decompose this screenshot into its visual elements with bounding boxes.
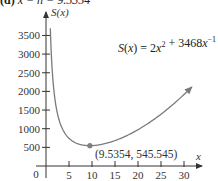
origin-label: 0 — [33, 168, 39, 180]
x-tick-label: 25 — [156, 169, 168, 181]
x-tick-label: 10 — [87, 169, 99, 181]
x-tick-label: 30 — [179, 169, 191, 181]
x-tick-label: 20 — [133, 169, 145, 181]
x-axis-ticks: 51015202530 — [66, 161, 190, 181]
y-tick-label: 3500 — [18, 29, 41, 41]
y-tick-label: 2500 — [18, 67, 41, 79]
function-plot: 500100015002000250030003500 51015202530 … — [0, 0, 218, 181]
y-axis-label: S(x) — [51, 6, 69, 19]
y-tick-label: 3000 — [18, 48, 41, 60]
function-label: S(x) = 2x2 + 3468x−1 — [118, 35, 216, 55]
y-tick-label: 500 — [24, 141, 41, 153]
x-axis-label: x — [195, 150, 201, 162]
x-tick-label: 15 — [110, 169, 122, 181]
y-tick-label: 2000 — [18, 85, 41, 97]
y-tick-label: 1500 — [18, 104, 41, 116]
x-tick-label: 5 — [66, 169, 72, 181]
minimum-point-label: (9.5354, 545.545) — [95, 148, 178, 161]
minimum-point — [87, 143, 92, 148]
y-tick-label: 1000 — [18, 123, 41, 135]
y-axis-ticks: 500100015002000250030003500 — [18, 29, 50, 153]
